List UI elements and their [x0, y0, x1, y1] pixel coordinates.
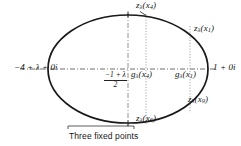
label-left-endpoint: −4 + λ + 0i: [14, 63, 58, 72]
label-z-lambda-x4: zλ(x4): [136, 1, 156, 11]
label-midpoint-fraction: −1 + λ 2: [104, 71, 127, 89]
label-g-lambda-x1: gλ(x1): [175, 70, 196, 80]
label-z-lambda-x1: zλ(x1): [194, 24, 214, 34]
fraction-denominator: 2: [104, 81, 127, 89]
label-g-lambda-x4: gλ(x4): [131, 70, 152, 80]
ellipse-fixed-points-figure: zλ(x4) zλ(x1) zλ(x9) zλ(x6) −4 + λ + 0i …: [0, 0, 241, 146]
label-right-endpoint: 1 + 0i: [213, 63, 236, 72]
figure-caption: Three fixed points: [69, 131, 138, 141]
fraction-numerator: −1 + λ: [104, 71, 127, 79]
label-z-lambda-x6: zλ(x6): [136, 114, 156, 124]
label-z-lambda-x9: zλ(x9): [188, 95, 208, 105]
fixed-points-bracket: [68, 126, 134, 129]
